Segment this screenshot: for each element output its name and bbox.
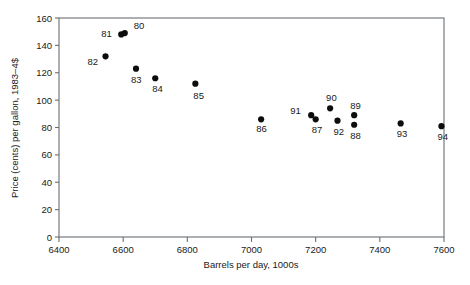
y-tick-label: 100 <box>36 95 52 106</box>
data-point-label: 85 <box>193 90 204 101</box>
data-point <box>334 118 340 124</box>
data-point-label: 82 <box>88 56 99 67</box>
y-tick-label: 160 <box>36 13 52 24</box>
data-point <box>327 105 333 111</box>
data-point <box>118 31 124 37</box>
y-tick-label: 120 <box>36 67 52 78</box>
data-point <box>152 75 158 81</box>
x-tick-label: 7400 <box>369 244 390 255</box>
data-point-label: 84 <box>152 83 163 94</box>
data-point-label: 94 <box>437 131 448 142</box>
data-point-label: 80 <box>134 20 145 31</box>
x-tick-label: 6400 <box>48 244 69 255</box>
data-point <box>258 116 264 122</box>
data-point-label: 81 <box>101 28 112 39</box>
data-point <box>438 123 444 129</box>
data-point-label: 87 <box>312 124 323 135</box>
data-point-label: 86 <box>256 123 267 134</box>
data-point-label: 89 <box>350 100 361 111</box>
y-axis-ticks: 020406080100120140160 <box>36 13 59 243</box>
y-tick-label: 40 <box>41 177 52 188</box>
y-axis-title: Price (cents) per gallon, 1983–4$ <box>9 57 20 198</box>
y-tick-label: 80 <box>41 122 52 133</box>
data-point-label: 91 <box>290 105 301 116</box>
y-tick-label: 0 <box>47 232 52 243</box>
x-tick-label: 7600 <box>433 244 454 255</box>
data-point-labels: 808182838485868788899091929394 <box>88 20 448 142</box>
data-point <box>192 81 198 87</box>
x-tick-label: 7200 <box>305 244 326 255</box>
plot-frame <box>59 18 444 237</box>
x-tick-label: 6600 <box>113 244 134 255</box>
data-points <box>102 30 444 129</box>
y-tick-label: 140 <box>36 40 52 51</box>
scatter-chart: 020406080100120140160 640066006800700072… <box>0 0 470 285</box>
data-point <box>351 122 357 128</box>
x-axis-title: Barrels per day, 1000s <box>204 259 299 270</box>
data-point <box>133 66 139 72</box>
data-point <box>308 112 314 118</box>
x-tick-label: 6800 <box>177 244 198 255</box>
data-point-label: 88 <box>350 130 361 141</box>
data-point-label: 92 <box>333 126 344 137</box>
data-point <box>351 112 357 118</box>
y-tick-label: 60 <box>41 149 52 160</box>
data-point <box>398 120 404 126</box>
x-tick-label: 7000 <box>241 244 262 255</box>
data-point <box>102 53 108 59</box>
y-tick-label: 20 <box>41 204 52 215</box>
data-point-label: 93 <box>397 128 408 139</box>
data-point-label: 83 <box>131 74 142 85</box>
data-point-label: 90 <box>326 92 337 103</box>
x-axis-ticks: 6400660068007000720074007600 <box>48 237 454 255</box>
